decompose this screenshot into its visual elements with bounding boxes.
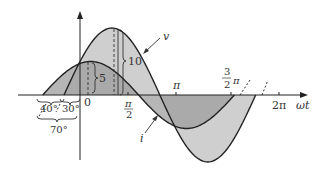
- i-pointer: [145, 118, 156, 133]
- i-dash-right: [262, 80, 268, 95]
- i-amplitude-label: 5: [99, 72, 106, 85]
- tick-label-pi: π: [172, 79, 181, 92]
- x-axis-label: ωt: [296, 99, 310, 112]
- tick-label-0: 0: [84, 96, 91, 109]
- x-axis-arrow-icon: [300, 92, 308, 98]
- phase-label-40: 40°: [40, 103, 58, 114]
- v-label: v: [163, 30, 170, 43]
- tick-label-pi-half-num: π: [124, 98, 132, 109]
- brace-70: [37, 116, 77, 122]
- i-label: i: [140, 132, 144, 145]
- y-axis-arrow-icon: [77, 11, 83, 19]
- phase-label-70: 70°: [50, 124, 68, 135]
- v-amplitude-label: 10: [128, 55, 142, 68]
- phase-label-30: 30°: [62, 103, 80, 114]
- i-pointer-arrow-icon: [152, 115, 158, 121]
- tick-label-2pi: 2π: [272, 99, 286, 112]
- tick-label-3pi-half-den: 2: [224, 79, 230, 90]
- v-dash-right: [240, 80, 250, 95]
- phase-diagram: 5 10 0 π 2 π 3 2 π 2π ωt v i 40° 30° 70°: [0, 0, 322, 170]
- tick-label-pi-half-den: 2: [126, 109, 132, 120]
- tick-label-3pi-half-num: 3: [224, 66, 230, 77]
- tick-label-3pi-half-suffix: π: [232, 75, 240, 86]
